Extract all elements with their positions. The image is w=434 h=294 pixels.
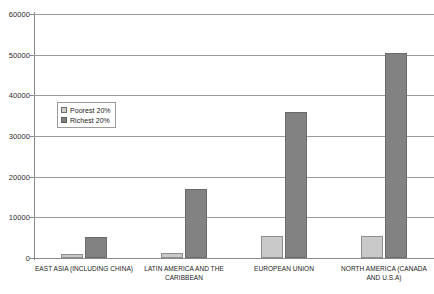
x-axis-category-label: EAST ASIA (INCLUDING CHINA) [34, 264, 134, 273]
y-axis-tick-label: 60000 [0, 10, 30, 19]
y-axis-tick-label: 20000 [0, 172, 30, 181]
y-axis-tick [30, 136, 34, 137]
bar-richest [85, 237, 107, 258]
gridline [34, 55, 434, 56]
y-axis-tick [30, 258, 34, 259]
x-axis-line [34, 258, 434, 259]
gridline [34, 177, 434, 178]
gridline [34, 217, 434, 218]
chart-legend: Poorest 20% Richest 20% [57, 102, 116, 128]
legend-item-richest: Richest 20% [61, 115, 111, 125]
gridline [34, 14, 434, 15]
y-axis-tick [30, 55, 34, 56]
bar-richest [185, 189, 207, 258]
y-axis-tick-label: 40000 [0, 91, 30, 100]
x-axis-category-label: EUROPEAN UNION [234, 264, 334, 273]
plot-area [34, 14, 434, 258]
legend-swatch-poorest-icon [61, 107, 67, 113]
bar-poorest [61, 254, 83, 258]
y-axis-tick [30, 14, 34, 15]
bar-richest [385, 53, 407, 258]
bar-richest [285, 112, 307, 258]
y-axis-tick [30, 217, 34, 218]
bar-poorest [161, 253, 183, 258]
legend-label-poorest: Poorest 20% [70, 107, 111, 114]
x-axis-category-label: LATIN AMERICA AND THE CARIBBEAN [134, 264, 234, 282]
legend-item-poorest: Poorest 20% [61, 105, 111, 115]
y-axis-tick-label: 30000 [0, 132, 30, 141]
legend-label-richest: Richest 20% [70, 117, 110, 124]
y-axis-tick-label: 0 [0, 254, 30, 263]
bar-chart: 0100002000030000400005000060000 EAST ASI… [0, 0, 434, 294]
bar-poorest [361, 236, 383, 258]
y-axis-tick-label: 10000 [0, 213, 30, 222]
y-axis-tick [30, 177, 34, 178]
x-axis-category-label: NORTH AMERICA (CANADA AND U.S.A) [334, 264, 434, 282]
bar-poorest [261, 236, 283, 258]
cutoff-caption [8, 286, 308, 294]
y-axis-tick [30, 95, 34, 96]
gridline [34, 95, 434, 96]
legend-swatch-richest-icon [61, 117, 67, 123]
y-axis-tick-label: 50000 [0, 50, 30, 59]
gridline [34, 136, 434, 137]
